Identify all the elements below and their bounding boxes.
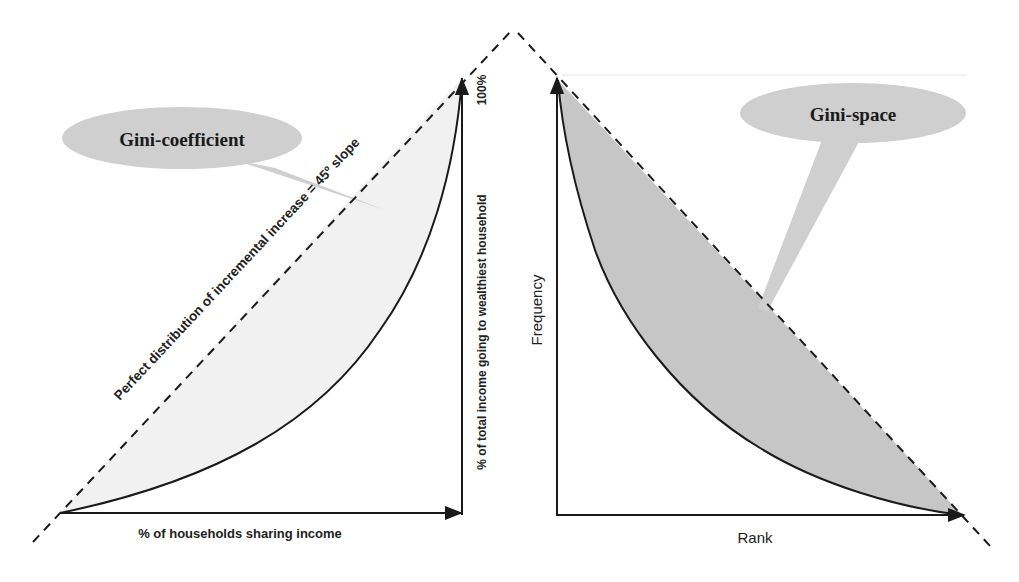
gini-space-callout: Gini-space [740, 83, 966, 312]
gini-diagram: Gini-coefficient % of households sharing… [0, 0, 1019, 582]
y-axis-max-label: 100% [475, 74, 489, 105]
y-axis-label: % of total income going to wealthiest ho… [475, 194, 489, 469]
right-panel-gini-space: Gini-space Rank Frequency [518, 33, 990, 546]
left-panel-lorenz: Gini-coefficient % of households sharing… [33, 30, 512, 542]
y-axis-label: Frequency [528, 274, 545, 345]
callout-tail [758, 140, 860, 312]
gini-space-label: Gini-space [810, 104, 897, 125]
x-axis-label: % of households sharing income [138, 526, 342, 541]
x-axis-label: Rank [737, 529, 773, 546]
gini-coefficient-label: Gini-coefficient [119, 129, 245, 150]
